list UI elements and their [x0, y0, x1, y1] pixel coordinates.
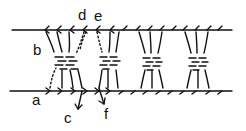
label-f: f	[104, 106, 108, 121]
crossbridge-bundle-2	[97, 32, 120, 88]
crossbridge-bundle-4	[185, 32, 209, 88]
diagram-canvas	[0, 0, 246, 131]
arrow-c	[75, 91, 82, 109]
label-d: d	[78, 7, 86, 22]
label-e: e	[94, 8, 102, 23]
crossbridge-bundle-3	[139, 32, 163, 88]
label-b: b	[33, 42, 41, 57]
label-c: c	[64, 110, 72, 125]
crossbridge-bundle-1	[46, 32, 84, 88]
label-a: a	[32, 92, 40, 107]
